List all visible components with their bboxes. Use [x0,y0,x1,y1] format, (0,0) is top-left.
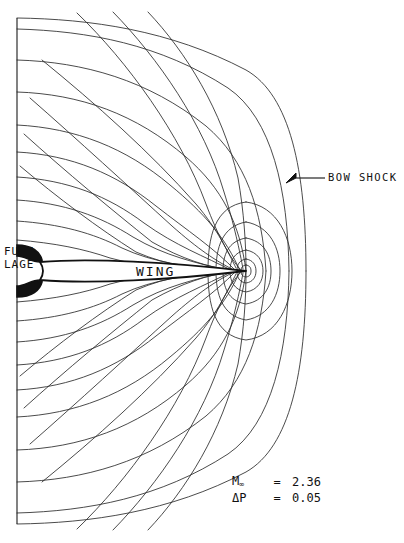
param-row-deltap: ΔP = 0.05 [232,490,321,506]
param-row-mach: M∞ = 2.36 [232,473,321,490]
pressure-contour-plot [0,0,404,543]
param-symbol-deltap: ΔP [232,490,266,506]
fuselage-label-line2: LAGE [4,258,35,271]
fuselage-label: FUSELAGE [4,246,35,272]
param-value-deltap: 0.05 [288,490,321,506]
param-equals-deltap: = [266,490,288,506]
fuselage-label-line1: FUSE [4,245,35,258]
wing-label: WING [136,264,175,279]
bow-shock-label: BOW SHOCK [328,171,398,183]
flow-parameters: M∞ = 2.36 ΔP = 0.05 [232,473,321,506]
figure-panel: FUSELAGE WING BOW SHOCK M∞ = 2.36 ΔP = 0… [0,0,404,543]
flow-parameters-table: M∞ = 2.36 ΔP = 0.05 [232,473,321,506]
param-symbol-mach: M∞ [232,473,266,490]
mach-subscript-infinity: ∞ [239,480,244,489]
param-value-mach: 2.36 [288,473,321,490]
param-equals-mach: = [266,473,288,490]
